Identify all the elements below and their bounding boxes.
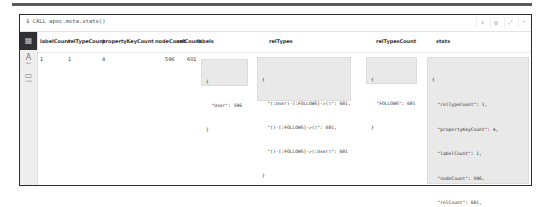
- header-relTypeCount: relTypeCount: [68, 38, 105, 44]
- view-code-button[interactable]: ▭ Code: [20, 68, 37, 86]
- code-label: Code: [25, 80, 31, 83]
- top-divider: [12, 3, 532, 6]
- cell-relTypesCount: { "FOLLOWS": 601 }: [366, 57, 417, 84]
- view-sidebar: ▦ A Text ▭ Code: [20, 32, 38, 185]
- header-relTypesCount: relTypesCount: [376, 38, 416, 44]
- cell-relTypes: { "(:User)-[:FOLLOWS]->()": 601, "()-[:F…: [257, 57, 351, 101]
- header-labels: labels: [197, 38, 214, 44]
- text-icon: A: [26, 54, 31, 62]
- cell-propertyKeyCount: 4: [102, 56, 105, 62]
- cell-relCount: 601: [187, 56, 197, 62]
- header-stats: stats: [436, 38, 450, 44]
- view-table-button[interactable]: ▦: [20, 32, 37, 50]
- cell-relTypeCount: 1: [68, 56, 71, 62]
- collapse-icon[interactable]: ⌃: [518, 17, 529, 28]
- header-relTypes: relTypes: [269, 38, 293, 44]
- table-header: labelCount relTypeCount propertyKeyCount…: [38, 32, 531, 53]
- cell-labelCount: 1: [40, 56, 43, 62]
- query-command[interactable]: $ CALL apoc.meta.stats(): [26, 18, 105, 24]
- cell-labels: { "User": 596 }: [201, 59, 248, 86]
- expand-icon[interactable]: ⤢: [504, 17, 515, 28]
- header-labelCount: labelCount: [40, 38, 70, 44]
- header-propertyKeyCount: propertyKeyCount: [102, 38, 154, 44]
- cell-nodeCount: 596: [165, 56, 175, 62]
- table-icon: ▦: [25, 37, 33, 45]
- command-bar: $ CALL apoc.meta.stats() ⍋ ⚙ ⤢ ⌃: [20, 15, 531, 32]
- pin-icon[interactable]: ⍋: [476, 17, 487, 28]
- view-text-button[interactable]: A Text: [20, 50, 37, 68]
- text-label: Text: [26, 62, 31, 65]
- result-frame: $ CALL apoc.meta.stats() ⍋ ⚙ ⤢ ⌃ ▦ A Tex…: [19, 14, 532, 186]
- code-icon: ▭: [25, 72, 33, 80]
- cell-stats: { "relTypeCount": 1, "propertyKeyCount":…: [427, 57, 529, 184]
- frame-actions: ⍋ ⚙ ⤢ ⌃: [476, 17, 529, 28]
- settings-icon[interactable]: ⚙: [490, 17, 501, 28]
- results-table: labelCount relTypeCount propertyKeyCount…: [38, 32, 531, 185]
